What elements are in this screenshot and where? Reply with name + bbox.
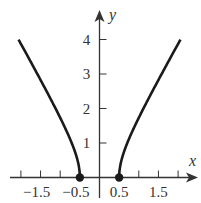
curve-right — [119, 40, 180, 178]
y-tick-label: 1 — [83, 135, 91, 151]
x-tick-labels: −1.5−0.50.51.5 — [23, 184, 168, 200]
curve-left — [19, 40, 80, 178]
x-axis-label: x — [188, 152, 196, 169]
x-tick-label: −1.5 — [23, 184, 50, 200]
x-tick-label: −0.5 — [62, 184, 89, 200]
y-tick-labels: 1234 — [83, 32, 91, 152]
endpoint-dot — [76, 173, 84, 181]
y-tick-label: 4 — [83, 32, 91, 48]
axes — [10, 10, 198, 198]
y-ticks — [100, 40, 107, 144]
x-tick-label: 0.5 — [110, 184, 129, 200]
y-tick-label: 2 — [83, 101, 91, 117]
y-tick-label: 3 — [83, 66, 91, 82]
x-tick-label: 1.5 — [149, 184, 168, 200]
y-axis-label: y — [107, 6, 117, 24]
endpoint-dot — [115, 173, 123, 181]
chart: −1.5−0.50.51.5 1234 x y — [0, 0, 201, 203]
